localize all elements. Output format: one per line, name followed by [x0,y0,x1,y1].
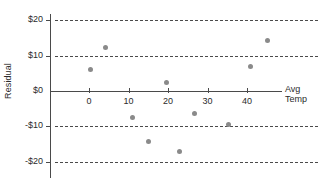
x-tick-mark [129,88,130,93]
x-tick-label: 0 [77,96,101,106]
residual-scatter-chart: Residual Avg Temp $20$10$0-$10-$20010203… [0,0,326,189]
gridline-horizontal [55,20,318,21]
data-point [265,38,270,43]
x-tick-mark [89,88,90,93]
data-point [103,45,108,50]
gridline-horizontal [55,56,318,57]
y-tick-mark [46,126,50,127]
x-axis-title-line1: Avg [285,84,307,94]
y-tick-label: $10 [9,50,43,60]
y-tick-mark [46,162,50,163]
data-point [130,115,135,120]
gridline-horizontal [55,126,318,127]
y-tick-label: -$20 [9,156,43,166]
y-tick-label: $0 [9,85,43,95]
data-point [146,139,151,144]
data-point [164,80,169,85]
data-point [192,111,197,116]
x-tick-label: 20 [156,96,180,106]
y-tick-mark [46,20,50,21]
x-tick-mark [168,88,169,93]
x-tick-label: 40 [235,96,259,106]
y-tick-label: -$10 [9,120,43,130]
y-tick-label: $20 [9,14,43,24]
x-axis-title-line2: Temp [285,94,307,104]
data-point [177,149,182,154]
x-tick-mark [247,88,248,93]
x-axis-title: Avg Temp [285,84,307,104]
y-tick-mark [46,56,50,57]
y-axis-title: Residual [3,51,13,111]
x-tick-label: 30 [196,96,220,106]
data-point [248,64,253,69]
gridline-horizontal [55,162,318,163]
x-tick-mark [208,88,209,93]
data-point [88,67,93,72]
x-tick-label: 10 [117,96,141,106]
y-axis-line [50,14,51,178]
